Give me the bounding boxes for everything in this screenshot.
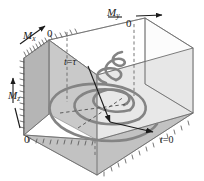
axis-label-mz: Mz <box>8 90 20 102</box>
magnetization-diagram <box>0 0 204 181</box>
annotation-t-tau: t=τ <box>64 57 76 67</box>
axis-label-mz-subscript: z <box>17 94 20 103</box>
ticks-mz <box>20 61 24 128</box>
axis-label-my-subscript: y <box>116 11 119 20</box>
arrow-my-right <box>136 15 162 16</box>
axis-label-mz-symbol: M <box>8 89 17 101</box>
axis-label-mx: Mx <box>23 30 36 42</box>
wall-left-front <box>24 40 49 135</box>
arrow-mz-down <box>15 108 20 128</box>
axis-label-my: My <box>107 7 120 19</box>
axis-label-mx-subscript: x <box>32 34 35 43</box>
axis-origin-mz: 0 <box>24 134 30 145</box>
annotation-t-zero: t=0 <box>160 135 173 145</box>
axis-origin-my: 0 <box>126 18 132 29</box>
annotation-t-zero-value: 0 <box>168 134 173 145</box>
axis-origin-mx: 0 <box>47 28 53 39</box>
figure-root: Mx 0 My 0 Mz 0 t=τ t=0 <box>0 0 204 181</box>
axis-label-my-symbol: M <box>107 6 116 18</box>
axis-label-mx-symbol: M <box>23 29 32 41</box>
annotation-t-tau-value: τ <box>72 56 76 67</box>
